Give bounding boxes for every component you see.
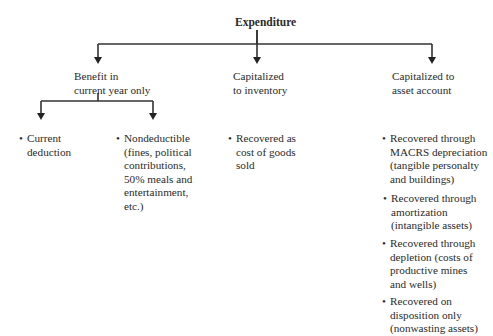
bullet-icon: • [382, 295, 386, 309]
item-line: and wells) [390, 278, 475, 292]
label-line: Capitalized to [392, 70, 454, 84]
item-line: (intangible assets) [391, 219, 476, 233]
item-line: and buildings) [390, 173, 487, 187]
bullet-icon: • [382, 132, 386, 146]
branch-label-current-year: Benefit in current year only [74, 70, 150, 97]
arrow-down-icon [428, 57, 436, 64]
arrow-down-icon [37, 113, 45, 120]
item-line: Recovered on [390, 295, 478, 309]
label-line: Capitalized [233, 70, 287, 84]
bullet-icon: • [116, 132, 120, 146]
bullet-icon: • [383, 192, 387, 206]
branch-label-inventory: Capitalized to inventory [233, 70, 287, 97]
item-line: sold [236, 159, 296, 173]
item-line: Current [27, 132, 71, 146]
item-line: disposition only [390, 309, 478, 323]
diagram-title: Expenditure [235, 16, 296, 30]
item-cost-of-goods-sold: • Recovered as cost of goods sold [236, 132, 296, 173]
bullet-icon: • [228, 132, 232, 146]
item-line: (nonwasting assets) [390, 322, 478, 336]
item-line: 50% meals and [124, 173, 192, 187]
bullet-icon: • [382, 237, 386, 251]
item-line: deduction [27, 146, 71, 160]
arrow-down-icon [253, 57, 261, 64]
item-line: amortization [391, 206, 476, 220]
item-line: Recovered as [236, 132, 296, 146]
item-depletion: • Recovered through depletion (costs of … [390, 237, 475, 291]
item-line: (tangible personalty [390, 159, 487, 173]
item-line: contributions, [124, 159, 192, 173]
item-disposition-only: • Recovered on disposition only (nonwast… [390, 295, 478, 336]
arrow-down-icon [149, 113, 157, 120]
item-line: etc.) [124, 200, 192, 214]
item-line: Recovered through [390, 132, 487, 146]
item-line: productive mines [390, 264, 475, 278]
label-line: current year only [74, 84, 150, 98]
item-line: Recovered through [391, 192, 476, 206]
item-line: entertainment, [124, 186, 192, 200]
arrow-down-icon [94, 57, 102, 64]
item-line: Recovered through [390, 237, 475, 251]
item-amortization: • Recovered through amortization (intang… [391, 192, 476, 233]
label-line: Benefit in [74, 70, 150, 84]
item-current-deduction: • Current deduction [27, 132, 71, 159]
item-line: MACRS depreciation [390, 146, 487, 160]
branch-label-asset-account: Capitalized to asset account [392, 70, 454, 97]
label-line: to inventory [233, 84, 287, 98]
item-line: cost of goods [236, 146, 296, 160]
item-line: (fines, political [124, 146, 192, 160]
bullet-icon: • [19, 132, 23, 146]
label-line: asset account [392, 84, 454, 98]
item-line: Nondeductible [124, 132, 192, 146]
item-line: depletion (costs of [390, 251, 475, 265]
item-nondeductible: • Nondeductible (fines, political contri… [124, 132, 192, 213]
item-macrs-depreciation: • Recovered through MACRS depreciation (… [390, 132, 487, 186]
